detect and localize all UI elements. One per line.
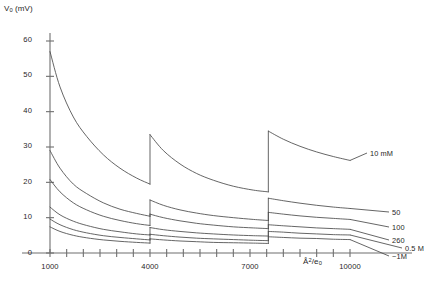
series-leader-line: [350, 153, 367, 160]
chart-figure: V0 (mV) Å2/e0 60 50 40 30 20 10 0 1000 4…: [0, 0, 431, 293]
series-label-260: 260: [392, 237, 405, 244]
data-curve: [50, 151, 350, 221]
data-curve: [50, 219, 350, 241]
data-curve: [50, 227, 350, 244]
y-tick-label-60: 60: [10, 36, 32, 44]
y-tick-label-20: 20: [10, 178, 32, 186]
x-tick-label-10000: 10000: [327, 263, 373, 271]
series-label-50: 50: [392, 209, 400, 216]
y-tick-label-30: 30: [10, 142, 32, 150]
x-axis-unit-divisor: /e: [312, 257, 319, 266]
y-tick-label-10: 10: [10, 213, 32, 221]
series-label-10mm: 10 mM: [370, 150, 393, 157]
series-label-100: 100: [392, 224, 405, 231]
x-axis-unit-sub: 0: [319, 260, 322, 266]
x-tick-label-4000: 4000: [127, 263, 173, 271]
x-tick-label-1000: 1000: [27, 263, 73, 271]
data-curve: [50, 52, 350, 192]
y-tick-label-50: 50: [10, 71, 32, 79]
x-tick-label-7000: 7000: [227, 263, 273, 271]
series-leader-line: [350, 219, 389, 227]
series-leader-line: [350, 229, 389, 240]
plot-canvas: [0, 0, 431, 293]
data-curve: [50, 207, 350, 236]
series-leader-line: [350, 208, 389, 212]
curves-group: [50, 52, 350, 244]
y-axis-title: V0 (mV): [4, 5, 33, 14]
y-tick-label-0: 0: [10, 249, 32, 257]
x-axis-unit-label: Å2/e0: [303, 258, 322, 267]
y-axis-title-unit: (mV): [13, 4, 33, 13]
series-label-05m: 0.5 M: [405, 245, 424, 252]
series-label-1m: ~1M: [392, 253, 407, 260]
y-tick-label-40: 40: [10, 107, 32, 115]
